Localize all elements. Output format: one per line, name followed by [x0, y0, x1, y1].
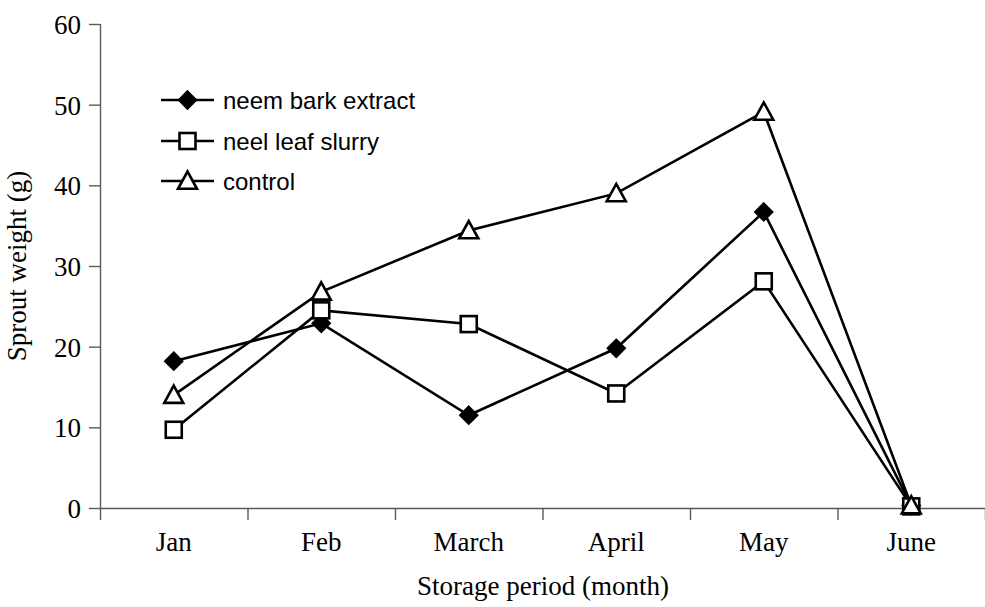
y-axis-title: Sprout weight (g): [2, 171, 32, 361]
y-tick-label: 50: [54, 91, 81, 121]
x-axis-title: Storage period (month): [417, 571, 669, 601]
x-category-label: June: [887, 527, 937, 557]
y-tick-label: 0: [68, 494, 82, 524]
x-category-label: March: [434, 527, 505, 557]
data-point-marker-square: [461, 316, 477, 332]
data-point-marker-square: [166, 422, 182, 438]
data-point-marker-square: [180, 133, 196, 149]
data-point-marker-square: [756, 273, 772, 289]
legend-label: neel leaf slurry: [223, 128, 379, 155]
x-category-label: Feb: [301, 527, 342, 557]
y-tick-label: 30: [54, 252, 81, 282]
y-tick-label: 20: [54, 333, 81, 363]
y-tick-label: 10: [54, 413, 81, 443]
legend-label: control: [223, 168, 295, 195]
data-point-marker-square: [313, 302, 329, 318]
chart-background: [0, 0, 985, 607]
y-tick-label: 60: [54, 10, 81, 40]
x-category-label: Jan: [156, 527, 192, 557]
line-chart: 0102030405060 JanFebMarchAprilMayJune ne…: [0, 0, 985, 607]
x-category-label: May: [739, 527, 789, 557]
chart-canvas: 0102030405060 JanFebMarchAprilMayJune ne…: [0, 0, 985, 607]
x-category-label: April: [588, 527, 645, 557]
y-tick-label: 40: [54, 171, 81, 201]
legend-label: neem bark extract: [223, 87, 415, 114]
data-point-marker-square: [608, 385, 624, 401]
